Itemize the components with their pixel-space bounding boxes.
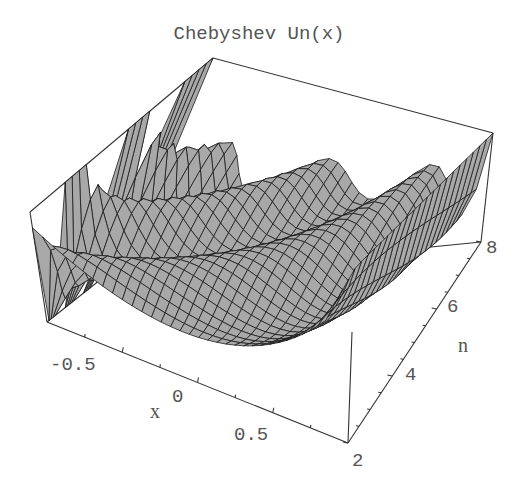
x-tick: [273, 408, 274, 413]
n-tick-label-2: 2: [352, 450, 363, 472]
surface-mesh: [32, 58, 493, 346]
x-tick: [198, 378, 199, 383]
n-tick-label-4: 4: [405, 364, 416, 386]
n-minor-tick: [378, 392, 381, 393]
x-axis-label: x: [150, 400, 160, 422]
x-minor-tick: [310, 425, 311, 428]
n-minor-tick: [423, 325, 426, 326]
x-tick-label-0.5: 0.5: [234, 424, 268, 446]
n-tick: [387, 375, 392, 376]
n-minor-tick: [412, 342, 415, 343]
x-minor-tick: [160, 364, 161, 367]
n-minor-tick: [356, 426, 359, 427]
n-tick: [476, 241, 481, 242]
n-tick-label-8: 8: [486, 237, 497, 259]
x-minor-tick: [85, 334, 86, 337]
n-minor-tick: [445, 292, 448, 293]
n-minor-tick: [467, 258, 470, 259]
chebyshev-surface-plot: Chebyshev Un(x) -0.5 0 0.5 x 2 4 6 8 n: [0, 0, 520, 488]
n-tick: [432, 308, 437, 309]
n-minor-tick: [367, 409, 370, 410]
x-minor-tick: [235, 395, 236, 398]
chart-title: Chebyshev Un(x): [173, 23, 344, 45]
box-edge-front-vertical: [348, 332, 352, 443]
x-tick-label-0: 0: [172, 386, 183, 408]
n-axis-label: n: [458, 334, 468, 356]
n-tick-label-6: 6: [447, 296, 458, 318]
box-edge: [213, 58, 493, 133]
n-minor-tick: [456, 275, 459, 276]
x-tick: [122, 347, 123, 352]
x-tick-label-neg-0.5: -0.5: [50, 354, 96, 376]
n-minor-tick: [400, 359, 403, 360]
